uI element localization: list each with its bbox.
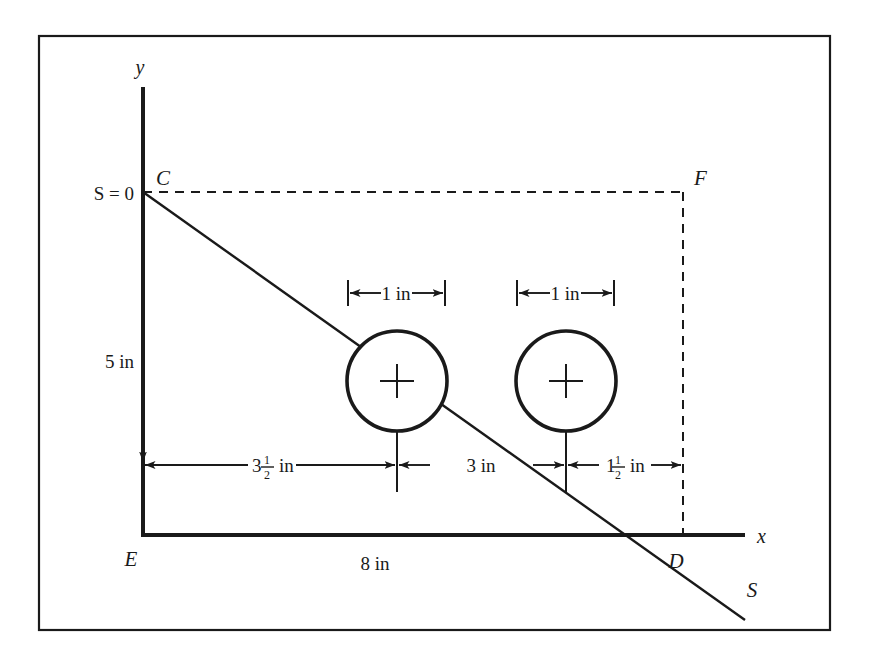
- beam-diagram-svg: 1 in 1 in 3 1 2 in 3 in: [0, 0, 870, 667]
- figure-border: [39, 36, 830, 630]
- point-label-C: C: [156, 166, 171, 190]
- figure-root: 1 in 1 in 3 1 2 in 3 in: [0, 0, 870, 667]
- point-label-D: D: [667, 549, 683, 573]
- dimension-circle-2-diameter: 1 in: [517, 280, 614, 306]
- s-zero-label: S = 0: [94, 183, 134, 204]
- shear-line-S: [143, 192, 745, 620]
- y-axis-label: y: [134, 56, 145, 79]
- span-bottom-label: 8 in: [360, 553, 390, 574]
- dim-label-right-offset-numerator: 1: [615, 453, 621, 467]
- dimension-right-offset: 1 1 2 in: [568, 453, 681, 482]
- dim-label-left-offset-numerator: 1: [264, 453, 270, 467]
- dim-label-left-offset-denominator: 2: [264, 468, 270, 482]
- dim-label-right-offset-denominator: 2: [615, 468, 621, 482]
- point-label-S: S: [747, 578, 758, 602]
- roller-1-group: [347, 331, 447, 492]
- dimension-circle-1-diameter: 1 in: [348, 280, 445, 306]
- x-axis-label: x: [756, 525, 766, 547]
- dimension-left-offset: 3 1 2 in: [145, 453, 395, 482]
- dim-label-circle-1: 1 in: [381, 283, 411, 304]
- dim-label-circle-spacing: 3 in: [466, 455, 496, 476]
- dim-label-left-offset-unit: in: [279, 455, 294, 476]
- point-label-F: F: [693, 166, 707, 190]
- point-label-E: E: [124, 547, 138, 571]
- dim-label-right-offset-unit: in: [630, 455, 645, 476]
- dim-label-left-offset-whole: 3: [252, 455, 262, 476]
- dim-label-circle-2: 1 in: [550, 283, 580, 304]
- height-label: 5 in: [105, 351, 135, 372]
